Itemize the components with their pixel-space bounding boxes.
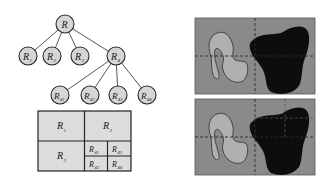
partition-grid: R 1 R 2 R 3 R 41 R 42 R 43 R 44 — [38, 111, 131, 171]
quadtree: R R 1 R 2 R 3 R 4 R 41 — [19, 15, 156, 104]
svg-text:R: R — [88, 145, 94, 154]
svg-text:1: 1 — [30, 58, 33, 63]
svg-text:R: R — [110, 51, 117, 62]
svg-text:R: R — [46, 51, 53, 62]
svg-text:41: 41 — [60, 97, 65, 102]
svg-text:R: R — [102, 120, 109, 131]
svg-text:43: 43 — [118, 97, 123, 102]
svg-text:R: R — [56, 150, 63, 161]
svg-text:44: 44 — [147, 97, 152, 102]
svg-text:R: R — [83, 91, 90, 101]
svg-text:R: R — [111, 145, 117, 154]
svg-text:R: R — [140, 91, 147, 101]
tree-node-r42: R 42 — [81, 86, 99, 104]
svg-text:1: 1 — [64, 128, 67, 133]
node-label: R — [61, 19, 68, 30]
svg-text:R: R — [53, 91, 60, 101]
tree-node-r44: R 44 — [138, 86, 156, 104]
svg-text:R: R — [111, 91, 118, 101]
svg-text:R: R — [74, 51, 81, 62]
tree-node-r1: R 1 — [19, 47, 37, 65]
tree-node-r3: R 3 — [71, 47, 89, 65]
svg-text:44: 44 — [118, 165, 123, 170]
svg-text:R: R — [56, 120, 63, 131]
tree-node-r41: R 41 — [51, 86, 69, 104]
tree-node-r4: R 4 — [107, 47, 125, 65]
svg-text:R: R — [111, 160, 117, 169]
tree-node-r2: R 2 — [43, 47, 61, 65]
svg-text:R: R — [88, 160, 94, 169]
svg-text:43: 43 — [95, 165, 100, 170]
tree-node-root: R — [56, 15, 74, 33]
svg-text:42: 42 — [90, 97, 95, 102]
image-panel-second-split — [195, 99, 315, 175]
image-panel-initial-split — [195, 18, 315, 94]
svg-text:41: 41 — [95, 150, 100, 155]
tree-node-r43: R 43 — [109, 86, 127, 104]
split-merge-diagram: R R 1 R 2 R 3 R 4 R 41 — [0, 0, 326, 188]
svg-text:R: R — [22, 51, 29, 62]
svg-text:42: 42 — [118, 150, 123, 155]
